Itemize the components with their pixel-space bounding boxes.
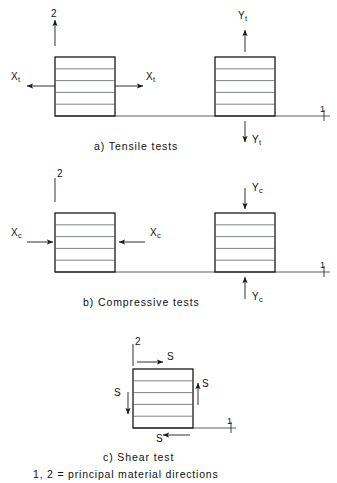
panel-b-compressive [27,178,330,299]
caption-panel-a: a) Tensile tests [94,140,178,152]
specimen-block-compressive-longitudinal [55,213,115,272]
load-label-xt-right: Xt [146,71,155,82]
load-label-yc-top: Yc [252,182,263,193]
laminate-layers [215,225,275,260]
caption-panel-c: c) Shear test [103,451,174,463]
caption-panel-b: b) Compressive tests [83,296,200,308]
load-label-yc-bottom: Yc [252,291,263,302]
shear-label-bottom: S [156,433,163,444]
load-label-yt-bottom: Yt [252,134,261,145]
mechanical-test-diagram [0,0,337,483]
axis-2-label-b: 2 [57,168,63,179]
axis-1-label-a: 1 [320,104,325,114]
specimen-block-compressive-transverse [215,213,275,272]
laminate-layers [215,69,275,104]
load-label-yt-top: Yt [238,10,247,21]
shear-label-top: S [167,351,174,362]
axis-2-label-a: 2 [51,8,57,19]
legend-principal-directions: 1, 2 = principal material directions [33,468,219,480]
load-label-xc-right: Xc [150,227,161,238]
specimen-block-shear [133,369,193,428]
axis-2-label-c: 2 [135,336,141,347]
panel-a-tensile [27,20,330,142]
laminate-layers [55,69,115,104]
laminate-layers [55,225,115,260]
axis-1-label-b: 1 [320,260,325,270]
specimen-block-tensile-longitudinal [55,57,115,116]
laminate-layers [133,381,193,416]
specimen-block-tensile-transverse [215,57,275,116]
load-label-xt-left: Xt [11,71,20,82]
load-label-xc-left: Xc [11,227,22,238]
axis-1-label-c: 1 [227,416,232,426]
panel-c-shear [128,344,236,435]
figure-canvas: 2 1 Xt Xt Yt Yt a) Tensile tests 2 1 Xc … [0,0,337,483]
shear-label-right: S [202,378,209,389]
shear-label-left: S [114,387,121,398]
